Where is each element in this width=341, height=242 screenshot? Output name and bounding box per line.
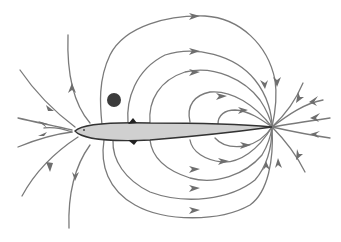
fish-eye <box>83 129 85 131</box>
upper-field-lines <box>100 16 276 127</box>
fish-body <box>75 123 272 141</box>
fish-dorsal-fin <box>128 118 137 124</box>
fish-ventral-fin <box>128 140 138 145</box>
field-diagram <box>0 0 341 242</box>
fish <box>75 118 272 145</box>
lower-arrows <box>189 142 282 214</box>
field-lines-svg <box>0 0 341 242</box>
object <box>107 93 121 107</box>
tail-radial-lines <box>272 83 330 172</box>
